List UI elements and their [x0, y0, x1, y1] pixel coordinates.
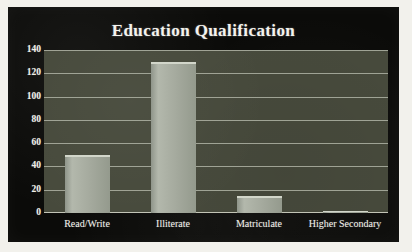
gridline: [44, 97, 388, 98]
chart-panel: Education Qualification 0204060801001201…: [8, 7, 399, 242]
gridline: [44, 143, 388, 144]
x-axis-category-label: Read/Write: [44, 217, 130, 231]
bar: [237, 196, 282, 213]
gridline: [44, 50, 388, 51]
y-axis-tick-label: 40: [11, 161, 41, 171]
y-axis-tick-label: 0: [11, 208, 41, 218]
x-axis-category-label: Illiterate: [130, 217, 216, 231]
y-axis: 020406080100120140: [8, 50, 41, 213]
y-axis-tick-label: 140: [11, 45, 41, 55]
y-axis-tick-label: 80: [11, 115, 41, 125]
y-axis-tick-label: 20: [11, 185, 41, 195]
x-axis-category-label: Higher Secondary: [302, 217, 388, 231]
bar: [151, 62, 196, 213]
plot-area: [44, 50, 388, 213]
gridline: [44, 73, 388, 74]
y-axis-tick-label: 100: [11, 92, 41, 102]
gridline: [44, 120, 388, 121]
y-axis-tick-label: 60: [11, 138, 41, 148]
x-axis-category-label: Matriculate: [216, 217, 302, 231]
x-axis-labels: Read/WriteIlliterateMatriculateHigher Se…: [44, 217, 388, 237]
bar: [65, 155, 110, 213]
y-axis-tick-label: 120: [11, 68, 41, 78]
bar: [323, 211, 368, 213]
chart-title: Education Qualification: [8, 21, 399, 41]
scanned-page: Education Qualification 0204060801001201…: [0, 0, 412, 252]
